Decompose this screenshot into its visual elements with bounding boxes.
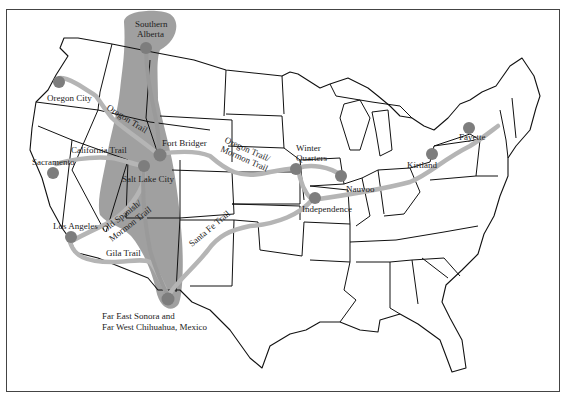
- marker-sacramento[interactable]: [47, 167, 59, 179]
- label-salt-lake-city: Salt Lake City: [122, 174, 174, 184]
- label-fort-bridger: Fort Bridger: [162, 138, 207, 148]
- marker-kirtland[interactable]: [426, 148, 438, 160]
- label-kirtland: Kirtland: [407, 160, 437, 170]
- marker-independence[interactable]: [309, 192, 321, 204]
- label-sacramento: Sacramento: [32, 157, 75, 167]
- label-winter-quarters-1: Winter: [296, 143, 321, 153]
- marker-fort-bridger[interactable]: [154, 149, 167, 162]
- label-oregon-city: Oregon City: [47, 93, 92, 103]
- label-mexico-2: Far West Chihuahua, Mexico: [102, 322, 208, 332]
- marker-salt-lake-city[interactable]: [138, 160, 150, 172]
- santa-fe-trail-line: [168, 200, 312, 296]
- label-independence: Independence: [302, 204, 352, 214]
- marker-mexico[interactable]: [162, 293, 175, 306]
- label-nauvoo: Nauvoo: [346, 184, 375, 194]
- marker-winter-quarters[interactable]: [290, 163, 302, 175]
- marker-los-angeles[interactable]: [65, 231, 77, 243]
- marker-southern-alberta[interactable]: [140, 42, 152, 54]
- marker-oregon-city[interactable]: [53, 76, 65, 88]
- label-winter-quarters-2: Quarters: [296, 153, 327, 163]
- label-southern-alberta-1: Southern: [135, 19, 168, 29]
- label-southern-alberta-2: Alberta: [137, 29, 164, 39]
- label-gila-trail: Gila Trail: [106, 248, 141, 258]
- us-trails-map: Southern Alberta Oregon City Fort Bridge…: [0, 0, 563, 395]
- label-mexico-1: Far East Sonora and: [102, 311, 175, 321]
- marker-nauvoo[interactable]: [335, 170, 347, 182]
- label-fayette: Fayette: [459, 132, 486, 142]
- label-santa-fe-trail: Santa Fe Trail: [187, 208, 233, 248]
- label-california-trail: California Trail: [71, 145, 127, 155]
- label-los-angeles: Los Angeles: [53, 221, 98, 231]
